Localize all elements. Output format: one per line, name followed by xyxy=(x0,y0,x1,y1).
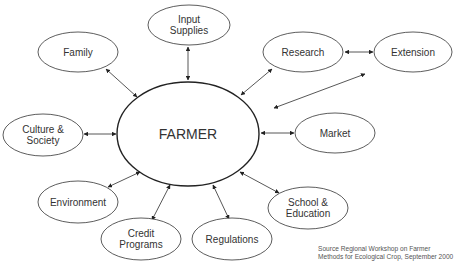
node-label: Family xyxy=(63,47,92,58)
node-label: Society xyxy=(27,135,60,146)
node-label: Environment xyxy=(50,197,106,208)
arrow-farmer-area-extension xyxy=(274,74,365,108)
farmer-relationship-diagram: InputSuppliesFamilyResearchExtensionCult… xyxy=(0,0,456,266)
node-label: Market xyxy=(320,128,351,139)
node-market: Market xyxy=(295,113,375,153)
node-credit-programs: CreditPrograms xyxy=(101,218,181,260)
node-regulations: Regulations xyxy=(192,218,272,260)
source-note: Source Regional Workshop on Farmer Metho… xyxy=(318,245,453,261)
node-extension: Extension xyxy=(374,32,452,72)
node-research: Research xyxy=(263,32,343,72)
node-label: Regulations xyxy=(206,234,259,245)
node-culture-society: Culture &Society xyxy=(3,114,83,156)
node-input-supplies: InputSupplies xyxy=(148,5,230,45)
node-label: Extension xyxy=(391,47,435,58)
node-label: Culture & xyxy=(22,124,64,135)
node-environment: Environment xyxy=(38,181,118,223)
arrow-farmer-research xyxy=(241,69,272,95)
node-label: Education xyxy=(286,208,330,219)
arrow-farmer-regulations xyxy=(213,185,229,219)
source-line-1: Source Regional Workshop on Farmer xyxy=(318,245,453,253)
node-label: Credit xyxy=(128,228,155,239)
node-school-education: School &Education xyxy=(268,187,348,229)
arrow-farmer-school-education xyxy=(240,172,279,193)
arrow-farmer-family xyxy=(106,69,137,97)
node-label: Supplies xyxy=(170,25,208,36)
arrow-farmer-environment xyxy=(108,172,140,187)
source-line-2: Methods for Ecological Crop, September 2… xyxy=(318,253,453,261)
node-label: Input xyxy=(178,14,200,25)
node-label: Programs xyxy=(119,239,162,250)
arrow-farmer-credit-programs xyxy=(152,185,170,220)
nodes-layer: InputSuppliesFamilyResearchExtensionCult… xyxy=(3,5,452,260)
node-family: Family xyxy=(38,32,118,72)
node-label: School & xyxy=(288,197,328,208)
node-label: Research xyxy=(282,47,325,58)
center-node: FARMER xyxy=(117,82,259,186)
farmer-label: FARMER xyxy=(159,126,217,142)
